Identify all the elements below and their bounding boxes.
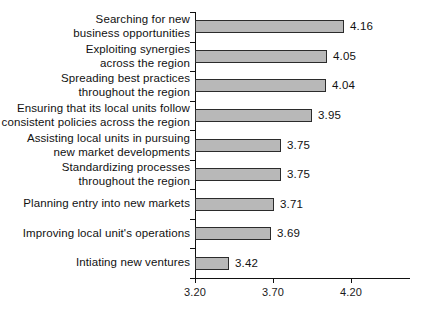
- bar: [195, 257, 229, 270]
- plot-area: 4.16 4.05 4.04 3.95 3.75 3.75 3.71 3.69 …: [195, 12, 410, 278]
- category-axis-tick: [190, 130, 195, 131]
- category-label: Standardizing processesthroughout the re…: [0, 161, 190, 188]
- bar-chart: Searching for newbusiness opportunities …: [0, 0, 423, 311]
- bar: [195, 198, 274, 211]
- value-axis-tick-label: 4.20: [331, 286, 371, 298]
- category-axis-tick: [190, 42, 195, 43]
- category-label: Planning entry into new markets: [0, 197, 190, 211]
- category-label: Exploiting synergiesacross the region: [0, 43, 190, 70]
- value-axis-tick: [351, 278, 352, 283]
- bar: [195, 79, 326, 92]
- category-label: Spreading best practicesthroughout the r…: [0, 72, 190, 99]
- bar-value-label: 3.95: [318, 109, 341, 122]
- bar: [195, 168, 281, 181]
- category-axis-tick: [190, 160, 195, 161]
- bar-value-label: 3.42: [235, 257, 258, 270]
- bar-value-label: 4.05: [333, 50, 356, 63]
- category-label: Searching for newbusiness opportunities: [0, 13, 190, 40]
- bar: [195, 50, 327, 63]
- bar: [195, 109, 312, 122]
- value-axis-tick-label: 3.20: [175, 286, 215, 298]
- category-label: Improving local unit's operations: [0, 227, 190, 241]
- bar-value-label: 4.16: [350, 20, 373, 33]
- category-axis-tick: [190, 189, 195, 190]
- bar: [195, 139, 281, 152]
- bar: [195, 227, 271, 240]
- category-axis-tick: [190, 71, 195, 72]
- category-label: Intiating new ventures: [0, 256, 190, 270]
- category-axis-tick: [190, 12, 195, 13]
- bar-value-label: 3.69: [277, 227, 300, 240]
- category-label: Ensuring that its local units followcons…: [0, 102, 190, 129]
- bar-value-label: 3.75: [287, 139, 310, 152]
- category-axis-tick: [190, 101, 195, 102]
- value-axis-tick: [195, 278, 196, 283]
- bar-value-label: 4.04: [332, 79, 355, 92]
- category-label: Assisting local units in pursuingnew mar…: [0, 132, 190, 159]
- category-axis-tick: [190, 248, 195, 249]
- bar-value-label: 3.71: [280, 198, 303, 211]
- bar-value-label: 3.75: [287, 168, 310, 181]
- value-axis-line: [195, 278, 410, 279]
- category-axis-tick: [190, 219, 195, 220]
- value-axis-tick-label: 3.70: [253, 286, 293, 298]
- bar: [195, 20, 344, 33]
- value-axis-tick: [273, 278, 274, 283]
